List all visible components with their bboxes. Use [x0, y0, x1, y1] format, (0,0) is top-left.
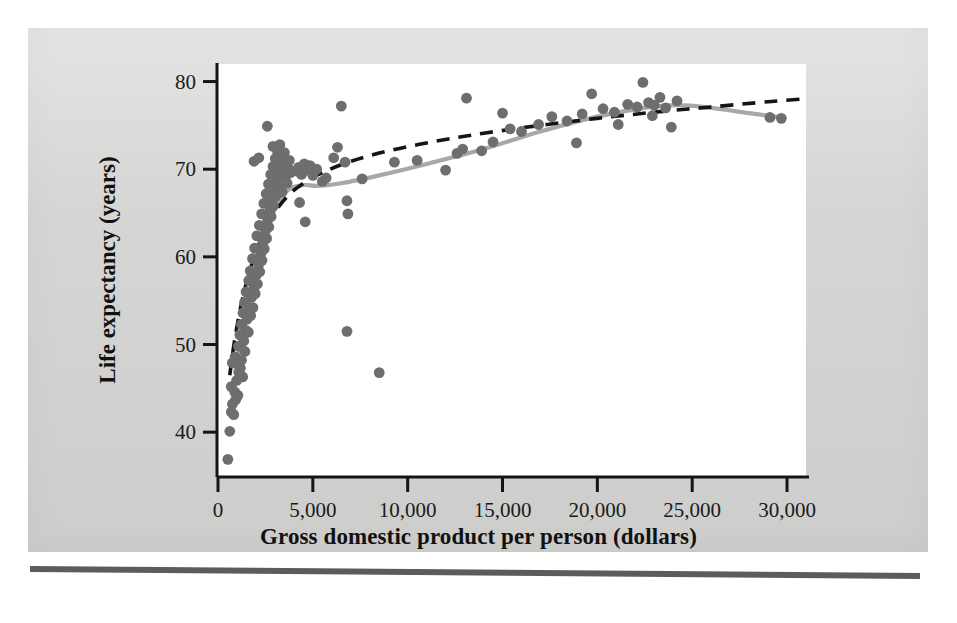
data-point [340, 157, 351, 168]
data-point [666, 122, 677, 133]
data-point [321, 173, 332, 184]
data-point [294, 197, 305, 208]
data-point [300, 216, 311, 227]
data-point [332, 142, 343, 153]
data-point [336, 101, 347, 112]
data-point [571, 137, 582, 148]
data-point [342, 326, 353, 337]
data-point [279, 147, 290, 158]
data-point [598, 103, 609, 114]
x-tick-label: 30,000 [758, 498, 816, 523]
data-point [609, 107, 620, 118]
y-tick-label: 60 [156, 244, 196, 269]
data-point [268, 201, 279, 212]
data-point [233, 390, 244, 401]
y-tick-label: 80 [156, 69, 196, 94]
y-axis-title: Life expectancy (years) [95, 156, 121, 383]
y-tick-label: 50 [156, 332, 196, 357]
data-point [222, 454, 233, 465]
data-point [546, 111, 557, 122]
data-point [261, 233, 272, 244]
data-point [343, 209, 354, 220]
data-point [647, 110, 658, 121]
data-point [776, 113, 787, 124]
x-tick-label: 5,000 [289, 498, 336, 523]
data-point [577, 109, 588, 120]
data-point [497, 108, 508, 119]
data-point [342, 195, 353, 206]
data-point [259, 244, 270, 255]
data-point [655, 92, 666, 103]
data-point [632, 102, 643, 113]
data-point [250, 288, 261, 299]
data-point [262, 121, 273, 132]
data-point [228, 409, 239, 420]
data-point [248, 302, 259, 313]
data-point [516, 126, 527, 137]
data-point [660, 102, 671, 113]
figure-page: 405060708005,00010,00015,00020,00025,000… [0, 0, 957, 623]
data-point [765, 112, 776, 123]
y-tick-label: 40 [156, 420, 196, 445]
data-point [613, 119, 624, 130]
data-point [488, 137, 499, 148]
x-tick-label: 20,000 [568, 498, 626, 523]
data-point [328, 152, 339, 163]
data-point [240, 346, 251, 357]
data-point [562, 116, 573, 127]
data-point [672, 95, 683, 106]
data-point [257, 255, 268, 266]
data-point [440, 165, 451, 176]
data-point [622, 99, 633, 110]
data-point [263, 222, 274, 233]
x-tick-label: 10,000 [379, 498, 437, 523]
data-point [637, 77, 648, 88]
x-tick-label: 25,000 [663, 498, 721, 523]
data-point [412, 155, 423, 166]
data-points [222, 77, 786, 465]
data-point [357, 173, 368, 184]
scatter-figure: 405060708005,00010,00015,00020,00025,000… [0, 0, 957, 623]
data-point [224, 426, 235, 437]
data-point [243, 327, 254, 338]
x-tick-label: 0 [213, 498, 224, 523]
data-point [277, 187, 288, 198]
data-point [505, 123, 516, 134]
data-point [266, 211, 277, 222]
fit-curves [230, 99, 802, 375]
data-point [311, 164, 322, 175]
data-point [586, 88, 597, 99]
data-point [254, 266, 265, 277]
data-point [389, 157, 400, 168]
lowess-smooth [235, 105, 783, 372]
x-tick-label: 15,000 [474, 498, 532, 523]
data-point [457, 144, 468, 155]
data-point [253, 152, 264, 163]
data-point [461, 93, 472, 104]
y-tick-label: 70 [156, 157, 196, 182]
x-axis-title: Gross domestic product per person (dolla… [0, 524, 957, 550]
data-point [476, 145, 487, 156]
data-point [252, 279, 263, 290]
data-point [533, 119, 544, 130]
data-point [374, 367, 385, 378]
data-point [268, 141, 279, 152]
data-point [237, 372, 248, 383]
